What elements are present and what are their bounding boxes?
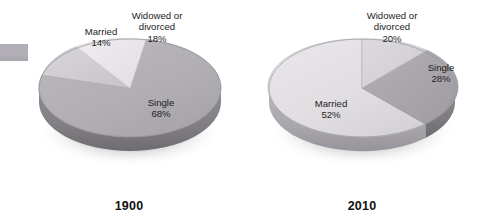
pie-chart-2010: Widowed or divorced 20% Single 28% Marri… [252,0,472,219]
pie-chart-1900: Married 14% Widowed or divorced 18% Sing… [26,0,232,219]
legend-caption: nts of tion [0,68,28,91]
pie-graphic-1900 [26,2,232,182]
legend-caption-line-2: tion [0,80,28,92]
chart-canvas: nts of tion [0,0,488,219]
pie-graphic-2010 [252,2,472,182]
legend-block: nts of tion [0,44,28,91]
legend-color-swatch [0,44,28,61]
year-label-1900: 1900 [26,199,232,213]
year-label-2010: 2010 [252,199,472,213]
legend-caption-line-1: nts of [0,68,28,80]
